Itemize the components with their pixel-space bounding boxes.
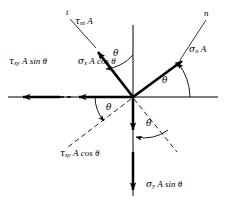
angle-label-theta-right: θ [162, 76, 167, 85]
n-axis-label: n [204, 9, 209, 18]
label-sigma-y-A-sin-theta: σy A sin θ [146, 180, 182, 190]
label-tau-xy-A-sin-theta: τxy A sin θ [9, 57, 47, 67]
arrow-sigma-n-A [133, 61, 182, 97]
label-tau-xy-A-cos-theta: τxy A cos θ [60, 149, 99, 159]
angle-label-theta-bottom: θ [146, 119, 151, 128]
figure-container: t n τnt A σn A τxy A sin θ σx A cos θ τx… [0, 0, 235, 211]
arc-theta-bottom [136, 130, 168, 138]
dashed-extensions [68, 19, 206, 152]
angle-label-theta-left: θ [106, 103, 111, 112]
arc-theta-right [178, 63, 190, 97]
label-sigma-x-A-cos-theta: σx A cos θ [78, 57, 116, 67]
arc-theta-left [95, 97, 104, 121]
t-axis-label: t [66, 8, 69, 17]
angle-label-theta-top: θ [113, 49, 118, 58]
t-axis-dashed-lower-right [134, 99, 177, 152]
label-sigma-n-A: σn A [189, 45, 206, 55]
n-axis-dashed-lower-left [68, 99, 131, 147]
label-tau-nt-A: τnt A [75, 17, 93, 27]
free-body-diagram-svg [0, 0, 235, 211]
